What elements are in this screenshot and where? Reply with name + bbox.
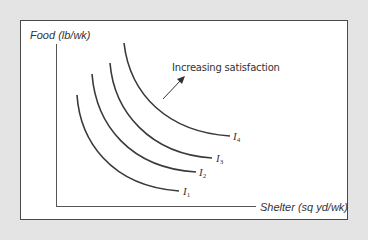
curve-subscript: 3 (220, 158, 224, 166)
y-axis-label: Food (lb/wk) (30, 29, 91, 41)
x-axis-label: Shelter (sq yd/wk) (260, 201, 348, 213)
curve-i1 (77, 95, 179, 191)
curve-label-i2: I2 (199, 166, 206, 180)
curve-subscript: 1 (187, 191, 191, 199)
curve-label-i1: I1 (183, 185, 190, 199)
curve-subscript: 4 (237, 136, 241, 144)
curve-label-i3: I3 (216, 152, 223, 166)
increasing-satisfaction-label: Increasing satisfaction (172, 62, 280, 73)
curve-label-i4: I4 (233, 130, 240, 144)
curve-i3 (110, 63, 212, 158)
curve-subscript: 2 (203, 172, 207, 180)
satisfaction-arrow (163, 80, 181, 99)
curve-i4 (124, 43, 230, 136)
